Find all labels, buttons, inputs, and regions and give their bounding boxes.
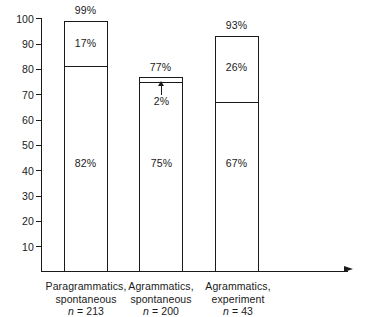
y-tick-mark-70 bbox=[36, 94, 42, 95]
y-tick-mark-100 bbox=[36, 18, 42, 19]
y-tick-label-50: 50 bbox=[2, 140, 34, 150]
bar2-upper-label: 2% bbox=[125, 96, 198, 107]
bar-paragrammatics-spontaneous bbox=[64, 21, 108, 272]
bar3-total-label: 93% bbox=[200, 20, 273, 31]
y-axis-labels: 100 90 80 70 60 50 40 30 20 10 bbox=[0, 0, 34, 317]
y-tick-label-10: 10 bbox=[2, 242, 34, 252]
y-tick-mark-30 bbox=[36, 196, 42, 197]
bar3-upper-label: 26% bbox=[200, 62, 273, 73]
category-line1: Agrammatics, bbox=[183, 280, 293, 293]
y-tick-label-60: 60 bbox=[2, 115, 34, 125]
bar3-lower-label: 67% bbox=[200, 158, 273, 169]
n-value: = 43 bbox=[229, 305, 253, 317]
bar1-upper-label: 17% bbox=[49, 38, 122, 49]
n-value: = 213 bbox=[74, 305, 104, 317]
y-tick-mark-90 bbox=[36, 44, 42, 45]
y-tick-mark-20 bbox=[36, 221, 42, 222]
y-tick-mark-50 bbox=[36, 145, 42, 146]
category-label-agrammatics-experiment: Agrammatics, experiment n = 43 bbox=[183, 280, 293, 317]
y-tick-label-80: 80 bbox=[2, 64, 34, 74]
y-tick-label-30: 30 bbox=[2, 191, 34, 201]
bar1-total-label: 99% bbox=[49, 5, 122, 16]
y-tick-label-20: 20 bbox=[2, 216, 34, 226]
category-line2: experiment bbox=[183, 293, 293, 306]
sample-size-line: n = 43 bbox=[183, 305, 293, 317]
y-tick-label-40: 40 bbox=[2, 166, 34, 176]
y-tick-mark-60 bbox=[36, 120, 42, 121]
y-tick-label-90: 90 bbox=[2, 39, 34, 49]
y-tick-mark-40 bbox=[36, 170, 42, 171]
bar2-lower-label: 75% bbox=[125, 158, 198, 169]
x-axis-arrowhead bbox=[344, 266, 353, 272]
n-value: = 200 bbox=[149, 305, 179, 317]
y-tick-label-70: 70 bbox=[2, 90, 34, 100]
y-tick-mark-10 bbox=[36, 246, 42, 247]
bar2-callout-arrowhead bbox=[158, 81, 164, 86]
y-tick-mark-80 bbox=[36, 69, 42, 70]
y-tick-label-100: 100 bbox=[2, 14, 34, 24]
bar2-total-label: 77% bbox=[124, 62, 197, 73]
stacked-bar-chart: 100 90 80 70 60 50 40 30 20 10 99% 17% 8… bbox=[0, 0, 365, 317]
bar1-lower-label: 82% bbox=[49, 158, 122, 169]
